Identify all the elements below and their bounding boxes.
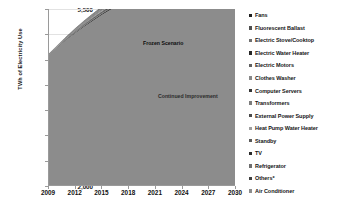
x-tick-label: 2024 [174, 189, 188, 196]
legend-item[interactable]: Refrigerator [249, 160, 341, 173]
legend-swatch-icon [249, 164, 252, 167]
x-tick-label: 2027 [201, 189, 215, 196]
x-tick [155, 186, 156, 189]
legend-swatch-icon [249, 114, 252, 117]
annotation-continued-improvement: Continued Improvement [158, 93, 218, 99]
legend-swatch-icon [249, 127, 252, 130]
legend-item-label: TV [255, 150, 262, 156]
legend-swatch-icon [249, 189, 252, 192]
x-tick [101, 186, 102, 189]
legend-item[interactable]: Standby [249, 134, 341, 147]
legend-item[interactable]: TV [249, 147, 341, 160]
y-tick [45, 85, 48, 86]
x-tick-label: 2030 [228, 189, 242, 196]
legend-item-label: Heat Pump Water Heater [255, 125, 318, 131]
y-tick [45, 135, 48, 136]
legend-swatch-icon [249, 76, 252, 79]
x-tick-label: 2015 [94, 189, 108, 196]
x-tick-label: 2018 [121, 189, 135, 196]
plot-area: Frozen Scenario Continued Improvement [48, 9, 235, 186]
legend-item[interactable]: Computer Servers [249, 84, 341, 97]
x-tick [128, 186, 129, 189]
legend-swatch-icon [249, 26, 252, 29]
x-tick [75, 186, 76, 189]
chart-legend: FansFluorescent BallastElectric Stove/Co… [249, 9, 341, 197]
legend-item-label: External Power Supply [255, 113, 314, 119]
x-tick [235, 186, 236, 189]
legend-swatch-icon [249, 51, 252, 54]
x-tick-label: 2012 [68, 189, 82, 196]
legend-item-label: Electric Motors [255, 62, 294, 68]
x-tick-label: 2009 [41, 189, 55, 196]
legend-item[interactable]: Heat Pump Water Heater [249, 122, 341, 135]
legend-item-label: Standby [255, 138, 276, 144]
legend-swatch-icon [249, 139, 252, 142]
y-tick [45, 161, 48, 162]
legend-item[interactable]: Fluorescent Ballast [249, 22, 341, 35]
legend-item-label: Fluorescent Ballast [255, 25, 305, 31]
legend-swatch-icon [249, 152, 252, 155]
stacked-area-chart: TWh of Electricity Use 2,0002,5003,0003,… [0, 0, 341, 215]
legend-item-label: Clothes Washer [255, 75, 296, 81]
x-tick-label: 2021 [148, 189, 162, 196]
legend-item-label: Computer Servers [255, 88, 302, 94]
y-tick [45, 110, 48, 111]
y-axis-title: TWh of Electricity Use [17, 9, 23, 109]
legend-swatch-icon [249, 177, 252, 180]
legend-item[interactable]: Fans [249, 9, 341, 22]
legend-item-label: Electric Stove/Cooktop [255, 37, 314, 43]
y-tick [45, 60, 48, 61]
y-tick [45, 34, 48, 35]
legend-item[interactable]: External Power Supply [249, 109, 341, 122]
legend-item[interactable]: Transformers [249, 97, 341, 110]
legend-item-label: Electric Water Heater [255, 50, 309, 56]
legend-item-label: Air Conditioner [255, 188, 294, 194]
legend-item-label: Fans [255, 12, 268, 18]
x-tick [48, 186, 49, 189]
legend-swatch-icon [249, 64, 252, 67]
legend-item[interactable]: Electric Water Heater [249, 47, 341, 60]
legend-swatch-icon [249, 101, 252, 104]
legend-item-label: Others* [255, 175, 275, 181]
legend-item[interactable]: Electric Motors [249, 59, 341, 72]
x-tick [182, 186, 183, 189]
legend-item-label: Refrigerator [255, 163, 286, 169]
legend-item[interactable]: Air Conditioner [249, 185, 341, 198]
legend-item[interactable]: Electric Stove/Cooktop [249, 34, 341, 47]
legend-swatch-icon [249, 39, 252, 42]
legend-item[interactable]: Clothes Washer [249, 72, 341, 85]
legend-swatch-icon [249, 89, 252, 92]
annotation-frozen-scenario: Frozen Scenario [143, 40, 183, 46]
legend-swatch-icon [249, 14, 252, 17]
y-tick [45, 9, 48, 10]
x-tick [208, 186, 209, 189]
legend-item-label: Transformers [255, 100, 290, 106]
legend-item[interactable]: Others* [249, 172, 341, 185]
